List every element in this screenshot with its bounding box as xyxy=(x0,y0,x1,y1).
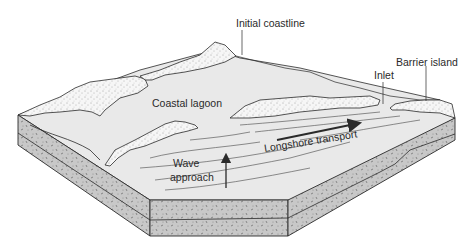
label-wave: Wave xyxy=(173,158,199,169)
label-barrier-island: Barrier island xyxy=(396,57,458,68)
label-inlet: Inlet xyxy=(374,70,394,81)
block-front-face xyxy=(150,200,288,236)
label-coastal-lagoon: Coastal lagoon xyxy=(152,98,222,109)
label-initial-coastline: Initial coastline xyxy=(236,18,305,29)
label-approach: approach xyxy=(170,172,214,183)
block-diagram-graphic xyxy=(0,0,468,247)
barrier-island-diagram: Initial coastline Barrier island Inlet C… xyxy=(0,0,468,247)
